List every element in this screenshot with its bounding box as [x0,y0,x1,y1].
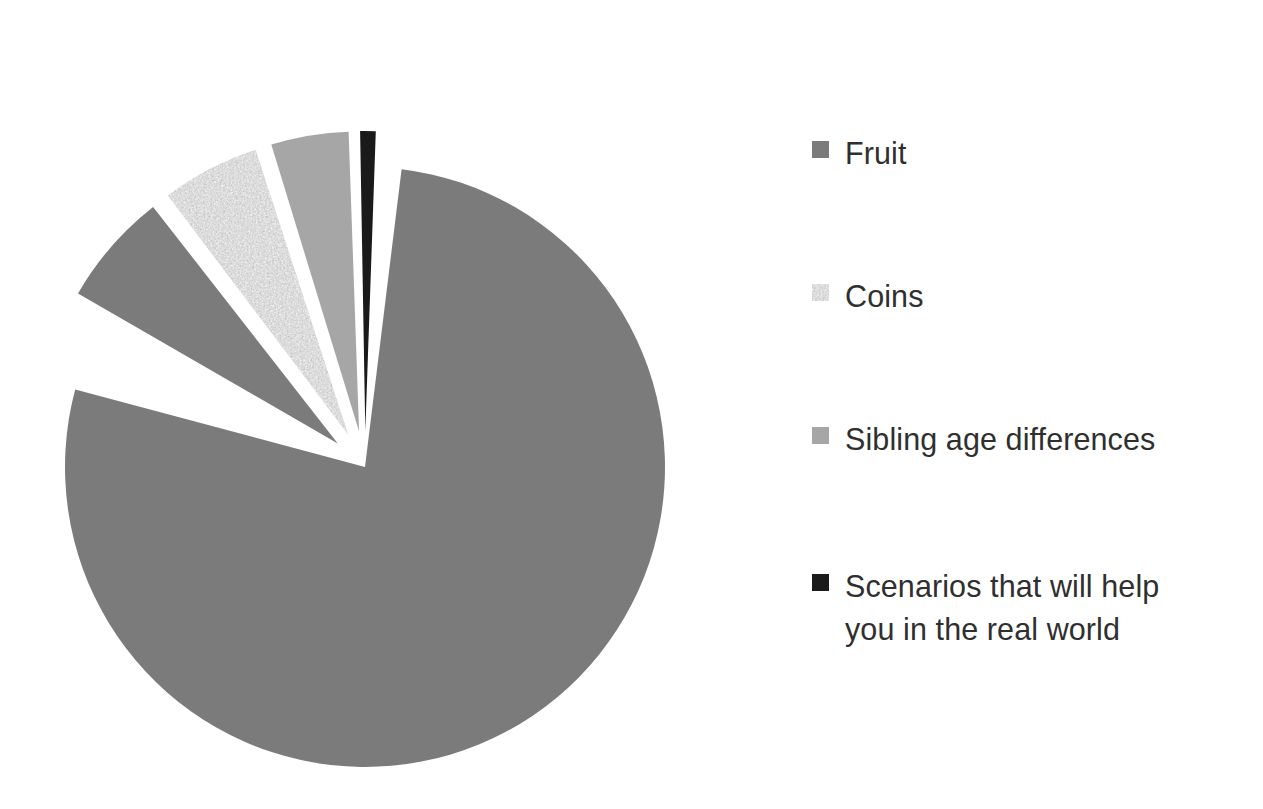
pie-plot-area [0,0,790,809]
legend-label-coins: Coins [845,275,923,318]
legend-label-sibling-age-differences: Sibling age differences [845,418,1155,461]
legend-label-fruit: Fruit [845,132,907,175]
legend-item-scenarios[interactable]: Scenarios that will help you in the real… [812,565,1159,651]
coins-texture-icon [812,284,829,301]
legend-swatch-scenarios [812,574,829,591]
legend-swatch-fruit [812,141,829,158]
legend-item-sibling-age-differences[interactable]: Sibling age differences [812,418,1155,461]
legend-swatch-sibling-age-differences [812,427,829,444]
legend-label-scenarios: Scenarios that will help you in the real… [845,565,1159,651]
pie-svg [0,0,790,809]
pie-chart-figure: Fruit Coins Sibling age differences Scen… [0,0,1263,809]
legend-item-fruit[interactable]: Fruit [812,132,907,175]
legend-swatch-coins [812,284,829,301]
legend-item-coins[interactable]: Coins [812,275,923,318]
pie-slice-scenarios[interactable] [360,131,376,431]
